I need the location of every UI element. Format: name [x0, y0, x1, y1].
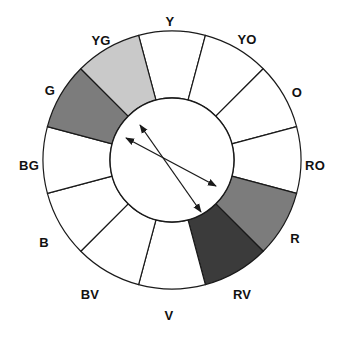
wheel-label-yo: YO [237, 33, 256, 46]
inner-circle [110, 98, 234, 222]
wheel-label-y: Y [166, 15, 175, 28]
inner-circle-outline [110, 98, 234, 222]
wheel-label-r: R [290, 232, 300, 245]
wheel-label-bg: BG [19, 159, 39, 172]
wheel-label-yg: YG [91, 34, 110, 47]
color-wheel-diagram: YYOORORRVVBVBBGGYG [0, 0, 341, 343]
wheel-label-b: B [39, 236, 49, 249]
wheel-label-ro: RO [305, 159, 325, 172]
wheel-label-o: O [292, 86, 302, 99]
color-wheel-graphic [0, 0, 341, 343]
wheel-label-v: V [165, 309, 174, 322]
wheel-label-bv: BV [81, 288, 99, 301]
wheel-label-g: G [45, 84, 55, 97]
wheel-label-rv: RV [233, 288, 251, 301]
